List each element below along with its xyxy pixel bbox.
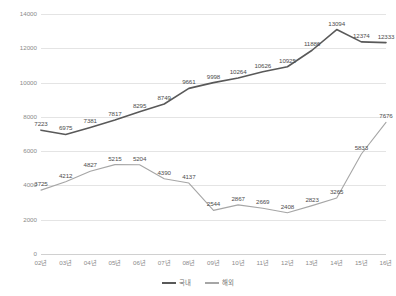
data-point-label: 10626 xyxy=(254,62,271,69)
y-tick-label: 12000 xyxy=(0,44,37,51)
data-point-label: 2408 xyxy=(281,203,294,210)
data-point-label: 5215 xyxy=(108,155,121,162)
data-point-label: 12333 xyxy=(378,33,395,40)
data-point-label: 10925 xyxy=(279,57,296,64)
y-tick-label: 2000 xyxy=(0,216,37,223)
data-point-label: 5833 xyxy=(355,144,368,151)
y-tick-label: 14000 xyxy=(0,10,37,17)
legend-swatch-icon xyxy=(205,282,219,284)
data-point-label: 4390 xyxy=(158,169,171,176)
y-tick-label: 0 xyxy=(0,250,37,257)
legend-swatch-icon xyxy=(162,282,176,284)
data-point-label: 11886 xyxy=(304,40,320,47)
series-lines xyxy=(41,14,386,254)
data-point-label: 7817 xyxy=(108,110,121,117)
data-point-label: 6975 xyxy=(59,124,72,131)
data-point-label: 4212 xyxy=(59,172,72,179)
data-point-label: 10264 xyxy=(230,68,247,75)
y-tick-label: 6000 xyxy=(0,147,37,154)
data-point-label: 4827 xyxy=(84,161,97,168)
data-point-label: 7676 xyxy=(379,112,392,119)
y-tick-label: 8000 xyxy=(0,113,37,120)
y-tick-label: 10000 xyxy=(0,79,37,86)
legend-item[interactable]: 국내 xyxy=(162,278,191,287)
axis-baseline xyxy=(41,254,386,255)
data-point-label: 12374 xyxy=(353,32,370,39)
data-point-label: 3725 xyxy=(34,180,47,187)
data-point-label: 9998 xyxy=(207,73,220,80)
data-point-label: 2669 xyxy=(256,198,269,205)
x-tick-label: 16년 xyxy=(371,258,396,267)
data-point-label: 2867 xyxy=(231,195,244,202)
data-point-label: 8749 xyxy=(158,94,171,101)
data-point-label: 8295 xyxy=(133,102,146,109)
legend-label: 해외 xyxy=(222,278,234,287)
legend-label: 국내 xyxy=(179,278,191,287)
data-point-label: 3265 xyxy=(330,188,343,195)
data-point-label: 9661 xyxy=(182,78,195,85)
data-point-label: 13094 xyxy=(328,20,345,27)
legend-item[interactable]: 해외 xyxy=(205,278,234,287)
data-point-label: 2544 xyxy=(207,200,220,207)
data-point-label: 2823 xyxy=(305,196,318,203)
y-tick-label: 4000 xyxy=(0,181,37,188)
plot-area: 7223697573817817829587499661999810264106… xyxy=(41,14,386,254)
data-point-label: 4137 xyxy=(182,173,195,180)
data-point-label: 7223 xyxy=(34,120,47,127)
chart-legend: 국내해외 xyxy=(0,278,396,287)
data-point-label: 5204 xyxy=(133,155,146,162)
line-chart: 02000400060008000100001200014000 7223697… xyxy=(0,0,396,296)
data-point-label: 7381 xyxy=(84,117,97,124)
